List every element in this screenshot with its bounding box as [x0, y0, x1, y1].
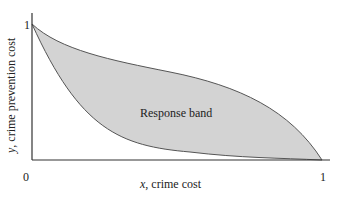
y-axis-label-text: , crime prevention cost: [4, 38, 18, 148]
x-axis-label-text: , crime cost: [145, 177, 201, 191]
y-axis-label: y, crime prevention cost: [4, 38, 19, 153]
response-band-region: [32, 24, 322, 160]
y-tick-max: 1: [24, 19, 30, 31]
response-band-plot: [0, 0, 342, 197]
response-band-label: Response band: [140, 107, 212, 119]
x-tick-min: 0: [23, 171, 29, 183]
x-tick-max: 1: [320, 171, 326, 183]
x-axis-label: x, crime cost: [140, 178, 201, 190]
y-var: y: [4, 148, 18, 153]
